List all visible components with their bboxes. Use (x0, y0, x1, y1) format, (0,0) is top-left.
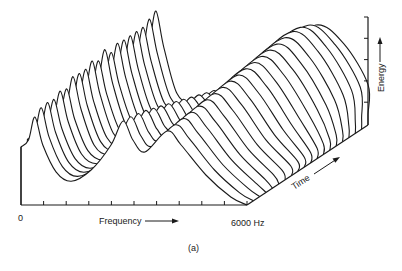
spectrogram-waterfall-figure: 0 Frequency 6000 Hz Time Energy (0, 0, 402, 271)
frequency-end-label: 6000 Hz (231, 218, 265, 228)
frequency-arrow-icon (145, 219, 179, 224)
figure-caption: (a) (188, 243, 199, 253)
time-arrow-icon (314, 157, 340, 174)
spectral-traces (21, 11, 370, 205)
frequency-origin-label: 0 (18, 213, 23, 223)
energy-axis-label: Energy (376, 63, 386, 92)
time-axis-label: Time (290, 173, 312, 192)
energy-arrow-icon (378, 37, 383, 62)
waterfall-plot: 0 Frequency 6000 Hz Time Energy (0, 0, 402, 271)
frequency-axis-label: Frequency (99, 216, 142, 226)
